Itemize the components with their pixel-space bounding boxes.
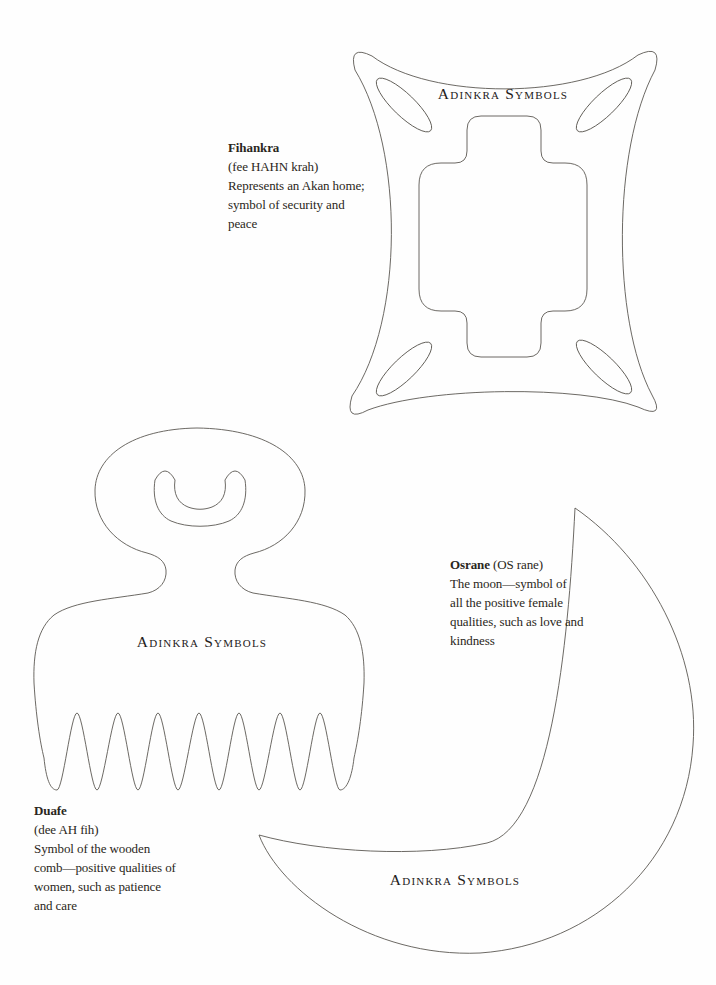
description-line: Symbol of the wooden: [34, 839, 176, 858]
duafe-shape: [34, 428, 364, 790]
description-line: comb—positive qualities of: [34, 858, 176, 877]
fihankra-description: Fihankra (fee HAHN krah) Represents an A…: [228, 138, 365, 233]
osrane-caption: Adinkra Symbols: [345, 871, 565, 889]
fihankra-center-cross: [419, 116, 587, 357]
symbol-pronunciation: (dee AH fih): [34, 820, 176, 839]
description-line: Represents an Akan home;: [228, 176, 365, 195]
symbol-name-line: Osrane (OS rane): [450, 555, 583, 574]
description-line: kindness: [450, 631, 583, 650]
symbol-pronunciation: (fee HAHN krah): [228, 157, 365, 176]
description-line: women, such as patience: [34, 877, 176, 896]
fihankra-oval-top-right: [570, 71, 639, 138]
fihankra-shape: [350, 51, 657, 414]
description-line: peace: [228, 214, 365, 233]
description-line: all the positive female: [450, 593, 583, 612]
description-line: qualities, such as love and: [450, 612, 583, 631]
symbol-name: Fihankra: [228, 138, 365, 157]
osrane-description: Osrane (OS rane) The moon—symbol of all …: [450, 555, 583, 650]
fihankra-oval-bottom-left: [370, 335, 439, 402]
symbol-name: Duafe: [34, 801, 176, 820]
description-line: symbol of security and: [228, 195, 365, 214]
symbol-pronunciation: (OS rane): [493, 557, 543, 572]
duafe-description: Duafe (dee AH fih) Symbol of the wooden …: [34, 801, 176, 915]
fihankra-oval-top-left: [370, 71, 439, 138]
symbol-name: Osrane: [450, 557, 490, 572]
fihankra-outline: [350, 51, 657, 414]
description-line: The moon—symbol of: [450, 574, 583, 593]
fihankra-oval-bottom-right: [570, 333, 639, 400]
duafe-caption: Adinkra Symbols: [92, 633, 312, 651]
book-page: Adinkra Symbols Adinkra Symbols Adinkra …: [0, 0, 716, 985]
duafe-outline: [34, 428, 364, 790]
description-line: and care: [34, 896, 176, 915]
duafe-horseshoe: [154, 471, 246, 526]
fihankra-caption: Adinkra Symbols: [393, 85, 613, 103]
